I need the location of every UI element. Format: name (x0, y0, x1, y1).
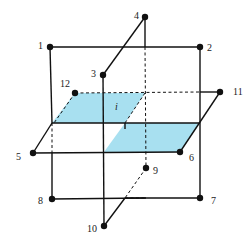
edge-3-4 (103, 17, 145, 75)
point-12 (72, 90, 78, 96)
point-7 (197, 195, 203, 201)
label-point-3: 3 (91, 69, 96, 79)
edge-10-up (104, 198, 125, 226)
point-3 (100, 72, 106, 78)
point-4 (142, 14, 148, 20)
point-8 (49, 196, 55, 202)
perpendicular-planes-diagram (0, 0, 252, 244)
point-5 (30, 150, 36, 156)
label-point-11: 11 (233, 87, 243, 97)
point-10 (101, 223, 107, 229)
label-point-6: 6 (189, 153, 194, 163)
label-point-4: 4 (134, 11, 139, 21)
label-point-9: 9 (153, 166, 158, 176)
label-point-8: 8 (38, 196, 43, 206)
edge-5-mid (33, 123, 52, 153)
edge-5-6 (33, 152, 180, 153)
shaded-region-front (104, 123, 200, 152)
edge-1-8-upper (50, 47, 52, 123)
label-point-10: 10 (87, 224, 97, 234)
edge-3-10 (103, 75, 104, 226)
point-1 (47, 44, 53, 50)
label-point-1: 1 (38, 41, 43, 51)
label-point-5: 5 (16, 152, 21, 162)
hidden-12-11 (75, 92, 200, 93)
label-point-2: 2 (207, 43, 212, 53)
point-9 (143, 165, 149, 171)
label-point-7: 7 (211, 196, 216, 206)
point-2 (197, 44, 203, 50)
plane-label-i: i (115, 102, 118, 112)
shaded-region-back (52, 93, 145, 123)
hidden-9-10 (125, 168, 146, 198)
point-11 (217, 89, 223, 95)
label-point-12: 12 (60, 79, 70, 89)
point-6 (177, 149, 183, 155)
